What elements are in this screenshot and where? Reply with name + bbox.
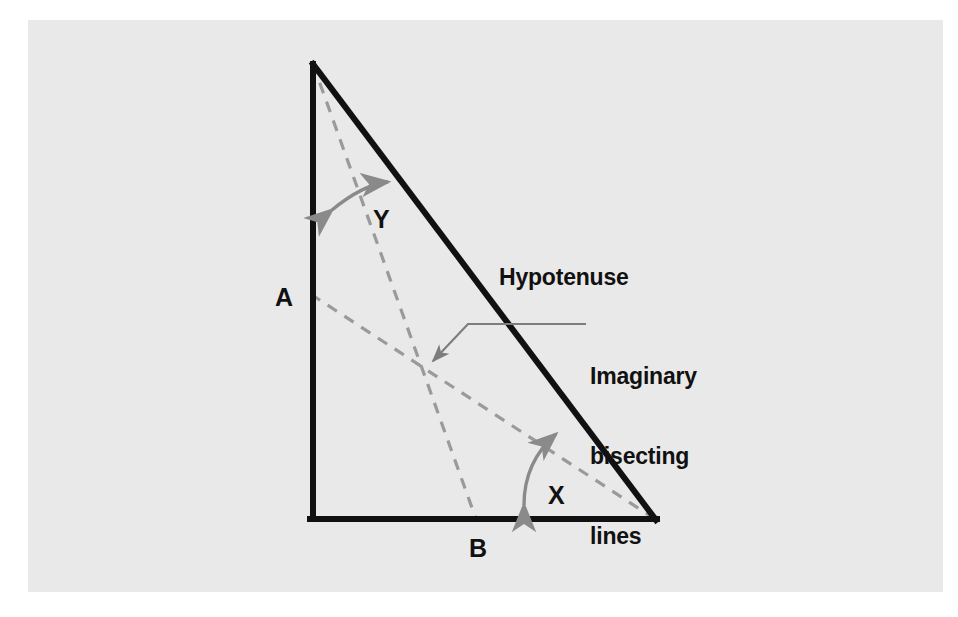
label-side-b: B bbox=[469, 534, 487, 563]
imaginary-lines-line-2: bisecting bbox=[590, 443, 697, 470]
label-angle-x: X bbox=[548, 481, 564, 510]
imaginary-lines-line-1: Imaginary bbox=[590, 363, 697, 390]
label-side-a: A bbox=[275, 283, 293, 312]
figure-root: A B Y X Hypotenuse Imaginary bisecting l… bbox=[0, 0, 958, 617]
label-angle-y: Y bbox=[373, 205, 389, 234]
label-imaginary-bisecting-lines: Imaginary bisecting lines bbox=[590, 310, 697, 603]
imaginary-lines-line-3: lines bbox=[590, 523, 697, 550]
label-hypotenuse: Hypotenuse bbox=[499, 264, 629, 291]
triangle-diagram-svg bbox=[0, 0, 958, 617]
bisector-from-apex bbox=[313, 64, 476, 519]
